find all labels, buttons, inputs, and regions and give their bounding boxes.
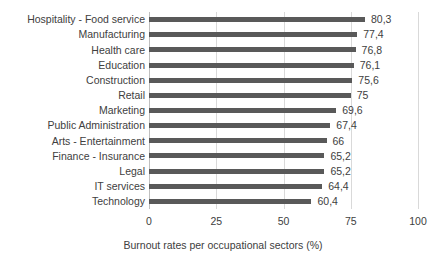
category-label: Construction <box>86 73 145 88</box>
category-label: Manufacturing <box>78 27 145 42</box>
bars-layer <box>149 12 418 209</box>
category-label: Technology <box>92 194 145 209</box>
category-label: Public Administration <box>48 118 145 133</box>
bar <box>149 47 356 52</box>
plot-area <box>149 12 418 209</box>
bar-row <box>149 88 418 103</box>
bar <box>149 108 336 113</box>
tick-label: 75 <box>345 214 357 228</box>
bar <box>149 17 365 22</box>
bar-row <box>149 103 418 118</box>
category-label: IT services <box>94 179 145 194</box>
bar-row <box>149 194 418 209</box>
bar-row <box>149 27 418 42</box>
tick-label: 0 <box>146 214 152 228</box>
x-axis-title: Burnout rates per occupational sectors (… <box>0 240 446 251</box>
bar <box>149 184 322 189</box>
bar-row <box>149 164 418 179</box>
category-label: Education <box>98 57 145 72</box>
category-label: Finance - Insurance <box>52 148 145 163</box>
bar <box>149 153 324 158</box>
burnout-rates-bar-chart: Hospitality - Food serviceManufacturingH… <box>0 0 446 268</box>
bar <box>149 78 352 83</box>
category-label: Health care <box>91 42 145 57</box>
gridline-100 <box>418 12 419 209</box>
bar <box>149 123 330 128</box>
bar-row <box>149 118 418 133</box>
category-axis-labels: Hospitality - Food serviceManufacturingH… <box>0 12 145 209</box>
value-axis-tick-labels: 0255075100 <box>0 214 446 228</box>
bar-row <box>149 148 418 163</box>
bar-row <box>149 12 418 27</box>
bar <box>149 199 311 204</box>
tick-label: 100 <box>409 214 427 228</box>
bar <box>149 63 354 68</box>
bar-row <box>149 73 418 88</box>
category-label: Legal <box>119 164 145 179</box>
bar-row <box>149 179 418 194</box>
tick-label: 50 <box>278 214 290 228</box>
bar-row <box>149 57 418 72</box>
category-label: Hospitality - Food service <box>27 12 145 27</box>
category-label: Retail <box>118 88 145 103</box>
bar <box>149 32 357 37</box>
category-label: Marketing <box>99 103 145 118</box>
bar-row <box>149 42 418 57</box>
bar <box>149 138 327 143</box>
category-label: Arts - Entertainment <box>52 133 145 148</box>
bar-row <box>149 133 418 148</box>
tick-label: 25 <box>210 214 222 228</box>
bar <box>149 93 351 98</box>
bar <box>149 169 324 174</box>
